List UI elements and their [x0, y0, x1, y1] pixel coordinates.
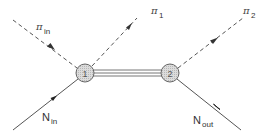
- svg-text:N: N: [42, 111, 50, 123]
- vertex-2-label: 2: [167, 69, 172, 79]
- vertex-2: 2: [161, 64, 179, 82]
- svg-text:π: π: [242, 5, 250, 16]
- arrow-icon: [47, 43, 55, 50]
- pi-2-label: π 2: [242, 5, 256, 20]
- svg-text:π: π: [150, 5, 158, 16]
- svg-text:in: in: [51, 117, 57, 126]
- propagator-triple-line: [93, 70, 162, 76]
- pi-2-line: [178, 18, 243, 68]
- pi-1-line: [92, 18, 137, 66]
- svg-text:2: 2: [251, 11, 256, 20]
- arrow-icon: [210, 38, 218, 45]
- scattering-diagram: 1 2 π in π 1 π 2 N in N out: [0, 0, 268, 131]
- svg-text:1: 1: [159, 11, 164, 20]
- vertex-1-label: 1: [82, 69, 87, 79]
- n-in-label: N in: [42, 111, 57, 126]
- pi-in-label: π in: [35, 21, 50, 36]
- svg-text:π: π: [35, 21, 43, 32]
- svg-text:out: out: [202, 120, 214, 129]
- svg-text:N: N: [193, 114, 201, 126]
- n-out-label: N out: [193, 114, 214, 129]
- pi-1-label: π 1: [150, 5, 164, 20]
- vertex-1: 1: [76, 64, 94, 82]
- svg-text:in: in: [44, 27, 50, 36]
